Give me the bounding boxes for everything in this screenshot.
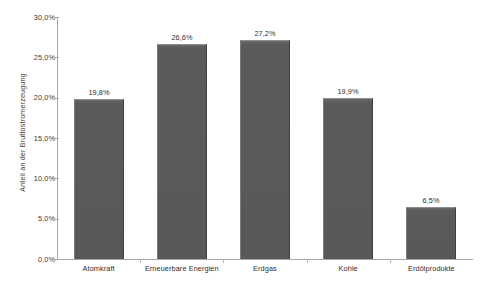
bar-1[interactable] bbox=[157, 44, 207, 259]
category-label: Erdgas bbox=[223, 264, 306, 273]
bar-2[interactable] bbox=[240, 40, 290, 259]
bar-value-label: 27,2% bbox=[220, 29, 310, 38]
y-tick-mark bbox=[55, 138, 59, 139]
category-label: Kohle bbox=[307, 264, 390, 273]
y-tick-mark bbox=[55, 98, 59, 99]
bar-value-label: 6,5% bbox=[386, 196, 476, 205]
bar-0[interactable] bbox=[74, 99, 124, 259]
x-tick-mark bbox=[140, 259, 141, 263]
bar-3[interactable] bbox=[323, 98, 373, 259]
y-tick-label: 20,0% bbox=[9, 93, 55, 102]
y-tick-mark bbox=[55, 57, 59, 58]
category-label: Atomkraft bbox=[57, 264, 140, 273]
x-tick-mark bbox=[390, 259, 391, 263]
bar-value-label: 19,8% bbox=[54, 88, 144, 97]
x-tick-mark bbox=[223, 259, 224, 263]
y-tick-label: 5,0% bbox=[9, 214, 55, 223]
y-tick-label: 15,0% bbox=[9, 134, 55, 143]
y-tick-label: 10,0% bbox=[9, 174, 55, 183]
x-axis-line bbox=[57, 259, 473, 260]
y-tick-mark bbox=[55, 17, 59, 18]
y-tick-mark bbox=[55, 259, 59, 260]
bar-value-label: 26,6% bbox=[137, 33, 227, 42]
y-tick-mark bbox=[55, 219, 59, 220]
y-tick-label: 0,0% bbox=[9, 255, 55, 264]
bar-4[interactable] bbox=[406, 207, 456, 259]
bar-chart: Anteil an der Bruttostromerzeugung 0,0%5… bbox=[0, 0, 489, 288]
y-tick-mark bbox=[55, 178, 59, 179]
category-label: Erneuerbare Energien bbox=[140, 264, 223, 273]
y-tick-label: 25,0% bbox=[9, 53, 55, 62]
x-tick-mark bbox=[307, 259, 308, 263]
category-label: Erdölprodukte bbox=[390, 264, 473, 273]
bar-value-label: 19,9% bbox=[303, 87, 393, 96]
y-tick-label: 30,0% bbox=[9, 13, 55, 22]
